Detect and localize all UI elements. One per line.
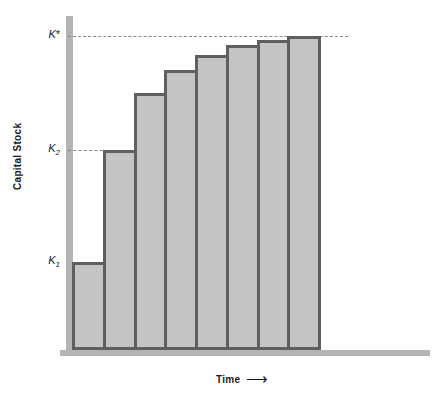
- bar: [164, 70, 198, 350]
- capital-stock-chart: K* K2 K1 Capital Stock Time ⟶: [0, 0, 445, 403]
- arrow-right-icon: ⟶: [246, 371, 268, 386]
- x-axis-title: Time ⟶: [216, 372, 269, 387]
- y-axis-title: Capital Stock: [12, 70, 23, 190]
- bar: [257, 40, 291, 350]
- bar-series: [0, 0, 445, 403]
- bar: [287, 36, 321, 350]
- bar: [195, 55, 229, 350]
- bar: [103, 150, 137, 350]
- bar: [226, 45, 260, 350]
- bar: [72, 262, 106, 350]
- x-axis-title-text: Time: [216, 374, 240, 385]
- bar: [134, 93, 168, 350]
